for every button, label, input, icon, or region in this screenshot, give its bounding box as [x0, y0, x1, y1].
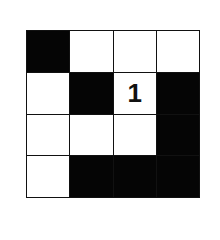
cell-r3-c3[interactable]: [157, 156, 199, 197]
cell-r2-c2[interactable]: [114, 115, 156, 156]
cell-r1-c3[interactable]: [157, 73, 199, 114]
cell-r1-c1[interactable]: [70, 73, 112, 114]
cell-r0-c2[interactable]: [114, 31, 156, 72]
cell-r3-c0[interactable]: [27, 156, 69, 197]
cell-r2-c0[interactable]: [27, 115, 69, 156]
cell-r0-c1[interactable]: [70, 31, 112, 72]
cell-r1-c0[interactable]: [27, 73, 69, 114]
cell-r2-c1[interactable]: [70, 115, 112, 156]
cell-r3-c2[interactable]: [114, 156, 156, 197]
cell-r0-c3[interactable]: [157, 31, 199, 72]
cell-r1-c2-clue[interactable]: 1: [114, 73, 156, 114]
cell-r0-c0[interactable]: [27, 31, 69, 72]
cell-r3-c1[interactable]: [70, 156, 112, 197]
puzzle-grid: 1: [26, 30, 200, 198]
cell-r2-c3[interactable]: [157, 115, 199, 156]
